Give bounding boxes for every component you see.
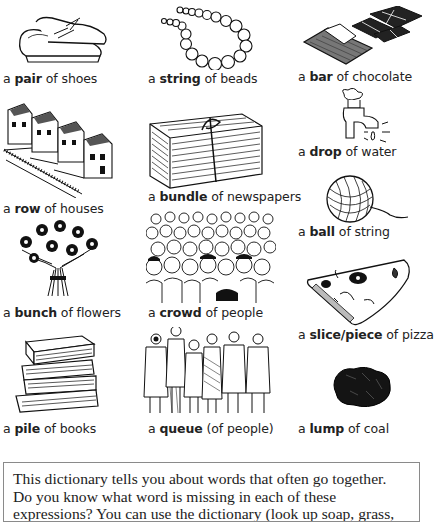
caption-prefix: a — [3, 201, 14, 216]
info-box: This dictionary tells you about words th… — [3, 462, 420, 522]
caption-suffix: of water — [342, 144, 397, 159]
caption-suffix: (of people) — [203, 421, 274, 436]
collocation-keyword: bundle — [159, 189, 207, 204]
caption-prefix: a — [148, 305, 159, 320]
houses-icon — [2, 100, 114, 198]
caption-crowd-of-people: a crowd of people — [148, 305, 263, 320]
info-line-3: expressions? You can use the dictionary … — [13, 505, 419, 522]
houses-illustration — [2, 100, 114, 198]
caption-suffix: of coal — [344, 421, 389, 436]
queue-illustration — [140, 327, 280, 417]
shoes-icon — [8, 10, 108, 66]
caption-prefix: a — [148, 71, 159, 86]
caption-prefix: a — [3, 305, 14, 320]
pizza-icon — [304, 258, 414, 328]
collocation-keyword: bunch — [14, 305, 57, 320]
tap-drop-icon — [326, 88, 396, 144]
books-illustration — [12, 332, 102, 416]
caption-prefix: a — [298, 144, 309, 159]
caption-row-of-houses: a row of houses — [3, 201, 104, 216]
caption-queue-of-people: a queue (of people) — [148, 421, 274, 436]
caption-prefix: a — [298, 421, 309, 436]
beads-icon — [156, 4, 266, 70]
flowers-illustration — [12, 218, 104, 298]
info-line-2: Do you know what word is missing in each… — [13, 488, 419, 506]
collocation-keyword: drop — [309, 144, 341, 159]
flowers-icon — [12, 218, 104, 298]
collocation-keyword: queue — [159, 421, 202, 436]
caption-suffix: of pizza — [382, 327, 433, 342]
crowd-icon — [146, 211, 276, 303]
collocation-keyword: row — [14, 201, 40, 216]
caption-suffix: of string — [335, 224, 390, 239]
caption-pile-of-books: a pile of books — [3, 421, 96, 436]
collocation-keyword: crowd — [159, 305, 201, 320]
caption-prefix: a — [298, 327, 309, 342]
chocolate-illustration — [300, 6, 424, 66]
coal-icon — [332, 365, 394, 409]
caption-bunch-of-flowers: a bunch of flowers — [3, 305, 121, 320]
caption-slice-of-pizza: a slice/piece of pizza — [298, 327, 434, 342]
collocation-keyword: pair — [14, 71, 41, 86]
caption-prefix: a — [298, 69, 309, 84]
caption-suffix: of houses — [40, 201, 103, 216]
newspapers-illustration — [146, 110, 266, 190]
tap-illustration — [326, 88, 396, 144]
caption-prefix: a — [148, 189, 159, 204]
caption-bundle-of-newspapers: a bundle of newspapers — [148, 189, 301, 204]
collocation-keyword: bar — [309, 69, 332, 84]
info-line-1: This dictionary tells you about words th… — [13, 470, 419, 488]
crowd-illustration — [146, 211, 276, 303]
caption-pair-of-shoes: a pair of shoes — [3, 71, 97, 86]
collocation-keyword: pile — [14, 421, 40, 436]
newspapers-icon — [146, 110, 266, 190]
caption-ball-of-string: a ball of string — [298, 224, 390, 239]
coal-illustration — [332, 365, 394, 409]
caption-drop-of-water: a drop of water — [298, 144, 396, 159]
caption-prefix: a — [298, 224, 309, 239]
caption-suffix: of books — [40, 421, 96, 436]
caption-suffix: of newspapers — [207, 189, 301, 204]
caption-suffix: of flowers — [57, 305, 121, 320]
caption-lump-of-coal: a lump of coal — [298, 421, 389, 436]
pizza-illustration — [304, 258, 414, 328]
beads-illustration — [156, 4, 266, 70]
ball-of-string-icon — [326, 175, 410, 225]
chocolate-icon — [300, 6, 424, 66]
caption-prefix: a — [3, 71, 14, 86]
collocation-keyword: string — [159, 71, 200, 86]
caption-prefix: a — [3, 421, 14, 436]
caption-bar-of-chocolate: a bar of chocolate — [298, 69, 412, 84]
caption-suffix: of beads — [201, 71, 258, 86]
caption-string-of-beads: a string of beads — [148, 71, 257, 86]
caption-suffix: of shoes — [42, 71, 97, 86]
shoes-illustration — [8, 10, 108, 66]
collocation-keyword: slice/piece — [309, 327, 382, 342]
collocation-keyword: lump — [309, 421, 344, 436]
collocation-keyword: ball — [309, 224, 335, 239]
queue-icon — [140, 327, 280, 417]
caption-suffix: of people — [202, 305, 263, 320]
caption-prefix: a — [148, 421, 159, 436]
ball-of-string-illustration — [326, 175, 410, 225]
books-icon — [12, 332, 102, 416]
caption-suffix: of chocolate — [333, 69, 412, 84]
